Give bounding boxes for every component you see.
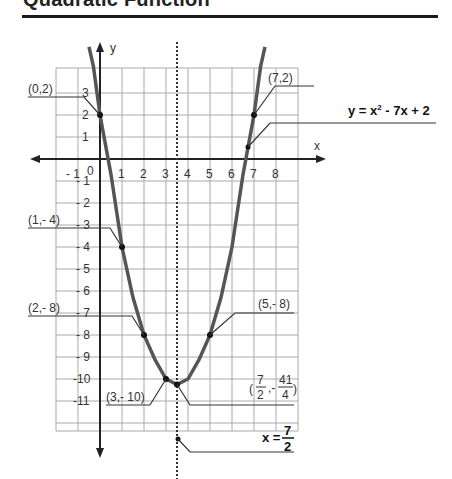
svg-text:6: 6 [228, 167, 235, 181]
svg-text:- 8: - 8 [76, 328, 90, 342]
y-axis-label: y [110, 41, 116, 55]
svg-text:7: 7 [250, 167, 257, 181]
svg-text:1: 1 [82, 130, 89, 144]
svg-text:- 4: - 4 [76, 240, 90, 254]
svg-text:- 3: - 3 [76, 218, 90, 232]
svg-text:-11: -11 [73, 394, 90, 408]
label-point-2-neg8: (2,- 8) [28, 301, 60, 315]
label-point-0-2: (0,2) [28, 82, 53, 96]
label-point-7-2: (7,2) [268, 71, 293, 85]
x-tick-labels: - 1 0 1 2 3 4 5 6 7 8 [66, 164, 279, 181]
y-tick-labels: 3 2 1 - 1 - 2 - 3 - 4 - 5 - 6 - 7 - 8 - … [73, 86, 91, 408]
label-point-1-neg4: (1,- 4) [28, 213, 60, 227]
svg-text:8: 8 [272, 167, 279, 181]
label-point-5-neg8: (5,- 8) [258, 297, 290, 311]
svg-text:x =: x = [262, 430, 281, 445]
svg-text:- 7: - 7 [76, 306, 90, 320]
svg-text:4: 4 [282, 388, 289, 402]
svg-text:7: 7 [284, 423, 291, 438]
svg-text:3: 3 [162, 167, 169, 181]
svg-text:-10: -10 [73, 372, 91, 386]
vertex-label: ( 7 2 ,- 41 4 ) [249, 373, 297, 402]
equation-label: y = x2 - 7x + 2 [348, 103, 430, 118]
svg-text:5: 5 [206, 167, 213, 181]
svg-text:2: 2 [284, 439, 291, 454]
svg-text:): ) [293, 382, 297, 396]
svg-text:2: 2 [140, 167, 147, 181]
svg-text:7: 7 [257, 373, 264, 387]
svg-text:- 1: - 1 [76, 174, 90, 188]
parabola-chart: x y - 1 0 1 2 3 4 5 6 7 8 3 2 1 - 1 - 2 … [0, 0, 452, 479]
label-point-3-neg10: (3,- 10) [106, 390, 145, 404]
x-axis-label: x [314, 139, 320, 153]
svg-text:- 5: - 5 [76, 262, 90, 276]
svg-text:1: 1 [118, 167, 125, 181]
svg-text:(: ( [249, 382, 253, 396]
svg-text:2: 2 [257, 388, 264, 402]
svg-text:- 2: - 2 [76, 196, 90, 210]
svg-text:2: 2 [82, 108, 89, 122]
svg-text:- 6: - 6 [76, 284, 90, 298]
svg-text:4: 4 [184, 167, 191, 181]
svg-text:,-: ,- [268, 381, 275, 395]
symmetry-label: x = 7 2 [262, 423, 294, 454]
svg-text:- 9: - 9 [76, 350, 90, 364]
svg-text:41: 41 [279, 373, 293, 387]
